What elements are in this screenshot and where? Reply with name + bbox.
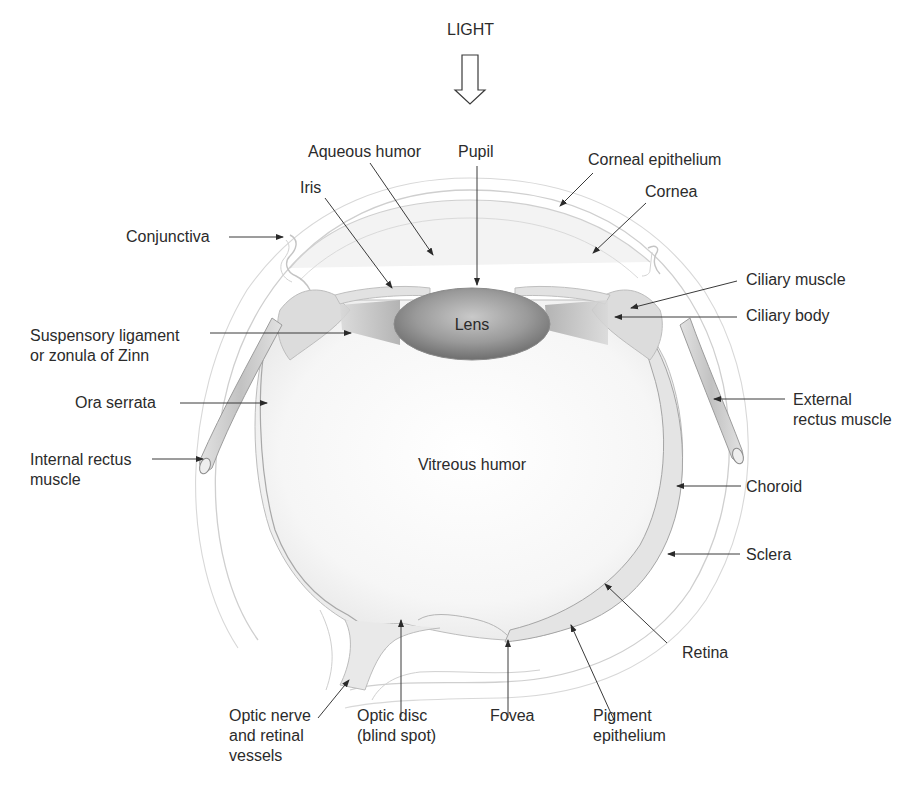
label-line: Internal rectus: [30, 450, 131, 470]
label-internal-rectus-muscle: Internal rectusmuscle: [30, 450, 131, 490]
light-title: LIGHT: [447, 20, 494, 40]
label-line: or zonula of Zinn: [30, 346, 179, 366]
label-corneal-epithelium: Corneal epithelium: [588, 150, 721, 170]
label-line: Optic nerve: [229, 706, 311, 726]
label-line: rectus muscle: [793, 410, 892, 430]
label-line: Pupil: [458, 142, 494, 162]
label-line: and retinal: [229, 726, 311, 746]
label-line: epithelium: [593, 726, 666, 746]
label-ora-serrata: Ora serrata: [75, 393, 156, 413]
lens-label: Lens: [455, 316, 490, 333]
external-rectus-muscle-shape: [680, 318, 745, 465]
label-optic-disc: Optic disc(blind spot): [357, 706, 436, 746]
label-aqueous-humor: Aqueous humor: [308, 142, 421, 162]
label-line: Aqueous humor: [308, 142, 421, 162]
label-line: Conjunctiva: [126, 227, 210, 247]
label-line: Suspensory ligament: [30, 326, 179, 346]
label-line: Ciliary body: [746, 306, 830, 326]
label-ciliary-muscle: Ciliary muscle: [746, 270, 846, 290]
label-fovea: Fovea: [490, 706, 534, 726]
label-pigment-epithelium: Pigmentepithelium: [593, 706, 666, 746]
label-line: muscle: [30, 470, 131, 490]
cornea-shape: [290, 200, 650, 280]
label-line: Choroid: [746, 477, 802, 497]
label-line: Retina: [682, 643, 728, 663]
label-line: Iris: [300, 178, 321, 198]
label-ciliary-body: Ciliary body: [746, 306, 830, 326]
label-line: Pigment: [593, 706, 666, 726]
label-pupil: Pupil: [458, 142, 494, 162]
label-sclera: Sclera: [746, 545, 791, 565]
label-cornea: Cornea: [645, 182, 697, 202]
label-line: Cornea: [645, 182, 697, 202]
label-line: vessels: [229, 746, 311, 766]
leader-arrow-retina: [605, 584, 667, 643]
label-line: External: [793, 390, 892, 410]
leader-arrow-corneal-epithelium: [560, 173, 593, 206]
label-conjunctiva: Conjunctiva: [126, 227, 210, 247]
label-iris: Iris: [300, 178, 321, 198]
label-suspensory-ligament: Suspensory ligamentor zonula of Zinn: [30, 326, 179, 366]
label-external-rectus-muscle: Externalrectus muscle: [793, 390, 892, 430]
vitreous-humor-label: Vitreous humor: [418, 456, 527, 473]
label-optic-nerve: Optic nerveand retinalvessels: [229, 706, 311, 766]
label-retina: Retina: [682, 643, 728, 663]
leader-arrow-optic-nerve: [318, 680, 349, 718]
label-line: (blind spot): [357, 726, 436, 746]
label-line: Ora serrata: [75, 393, 156, 413]
label-line: Sclera: [746, 545, 791, 565]
label-line: Corneal epithelium: [588, 150, 721, 170]
light-arrow-icon: [455, 55, 485, 104]
label-line: Ciliary muscle: [746, 270, 846, 290]
label-choroid: Choroid: [746, 477, 802, 497]
lens-shape: Lens: [394, 288, 550, 360]
label-line: Optic disc: [357, 706, 436, 726]
label-line: Fovea: [490, 706, 534, 726]
leader-arrow-ciliary-muscle: [631, 281, 737, 308]
